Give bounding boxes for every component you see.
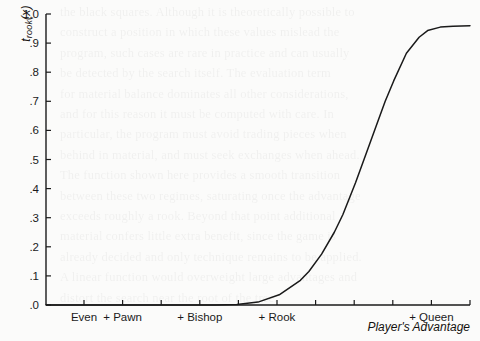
chart-plot-area: .0.1.2.3.4.5.6.7.8.91.0Even+ Pawn+ Bisho… bbox=[0, 0, 480, 341]
y-axis-tick-label: .3 bbox=[29, 212, 39, 224]
y-axis-tick-label: .8 bbox=[29, 66, 39, 78]
y-axis-label-main: t bbox=[19, 38, 33, 42]
y-axis-label: trook(x) bbox=[19, 0, 34, 64]
x-axis-tick-label: + Bishop bbox=[177, 311, 222, 323]
x-axis-label: Player's Advantage bbox=[367, 320, 470, 334]
x-axis-tick-label: Even bbox=[71, 311, 97, 323]
data-series-line bbox=[46, 26, 470, 305]
y-axis-tick-label: .6 bbox=[29, 124, 39, 136]
y-axis-tick-label: .4 bbox=[29, 183, 39, 195]
x-axis-tick-label: + Pawn bbox=[103, 311, 142, 323]
y-axis-label-subscript: rook bbox=[24, 20, 34, 38]
y-axis-tick-label: .7 bbox=[29, 95, 39, 107]
y-axis-tick-label: .0 bbox=[29, 299, 39, 311]
y-axis-tick-label: .5 bbox=[29, 154, 39, 166]
y-axis-tick-label: .1 bbox=[29, 270, 39, 282]
x-axis-tick-label: + Rook bbox=[259, 311, 296, 323]
y-axis-tick-label: .2 bbox=[29, 241, 39, 253]
y-axis-label-arg: (x) bbox=[19, 5, 33, 20]
